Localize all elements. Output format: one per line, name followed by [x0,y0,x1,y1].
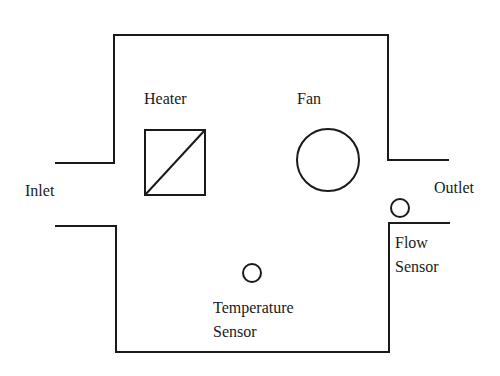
temperature-sensor-label-line2: Sensor [213,323,257,340]
outlet-label: Outlet [434,179,475,196]
heater-label: Heater [144,90,187,107]
temperature-sensor-label-line1: Temperature [213,299,294,317]
temperature-sensor-icon [243,264,261,282]
duct-diagram: Heater Fan Inlet Outlet Flow Sensor Temp… [0,0,500,376]
flow-sensor-label-line2: Sensor [395,258,439,275]
fan-icon [297,129,359,191]
chamber-outline [55,35,449,163]
fan-label: Fan [297,90,321,107]
flow-sensor-label-line1: Flow [395,234,428,251]
flow-sensor-icon [391,199,409,217]
inlet-label: Inlet [25,182,55,199]
heater-icon [145,130,205,195]
